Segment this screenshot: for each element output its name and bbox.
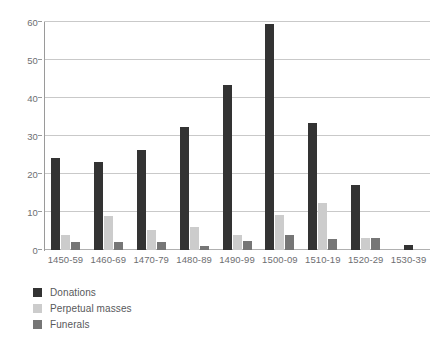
bar [404, 245, 413, 250]
legend-label: Perpetual masses [50, 303, 132, 314]
y-axis-tick-label: 0 [4, 245, 38, 256]
y-axis-tick-mark [38, 249, 42, 250]
bar [308, 123, 317, 250]
bar [61, 235, 70, 250]
y-axis-tick-label: 60 [4, 17, 38, 28]
x-axis-tick-label: 1490-99 [216, 254, 259, 270]
bar [275, 215, 284, 250]
legend-swatch-icon [33, 304, 42, 313]
bar [361, 238, 370, 250]
y-axis-tick-label: 10 [4, 207, 38, 218]
y-axis-tick-label: 20 [4, 169, 38, 180]
x-axis-tick-label: 1480-89 [173, 254, 216, 270]
bar [328, 239, 337, 250]
chart-legend: DonationsPerpetual massesFunerals [33, 285, 132, 333]
y-axis-tick-mark [38, 59, 42, 60]
bar-group [130, 22, 173, 250]
legend-swatch-icon [33, 320, 42, 329]
bar [265, 24, 274, 250]
bar [233, 235, 242, 250]
x-axis-tick-label: 1470-79 [130, 254, 173, 270]
bar [51, 158, 60, 250]
bar-chart-figure: 0102030405060 1450-591460-691470-791480-… [0, 0, 442, 341]
legend-item[interactable]: Perpetual masses [33, 301, 132, 316]
bar [147, 230, 156, 250]
y-axis-tick-label: 30 [4, 131, 38, 142]
bar-group [87, 22, 130, 250]
x-axis-tick-label: 1510-19 [301, 254, 344, 270]
y-axis-line [44, 22, 45, 251]
bar [351, 185, 360, 250]
bar-group [44, 22, 87, 250]
y-axis-tick-mark [38, 135, 42, 136]
legend-label: Funerals [50, 319, 90, 330]
bar-group [216, 22, 259, 250]
x-axis-tick-label: 1520-29 [344, 254, 387, 270]
bar [190, 227, 199, 250]
bar-group [387, 22, 430, 250]
bar [200, 246, 209, 250]
bar [223, 85, 232, 250]
legend-swatch-icon [33, 288, 42, 297]
bar [371, 238, 380, 250]
bar [137, 150, 146, 250]
bar-group [344, 22, 387, 250]
bar [71, 242, 80, 250]
legend-label: Donations [50, 287, 96, 298]
bar-group [258, 22, 301, 250]
x-axis-tick-label: 1500-09 [258, 254, 301, 270]
y-axis-tick-mark [38, 97, 42, 98]
bar-group [301, 22, 344, 250]
bar-groups [44, 22, 430, 250]
x-axis-tick-label: 1450-59 [44, 254, 87, 270]
y-axis-tick-mark [38, 173, 42, 174]
y-axis-labels: 0102030405060 [0, 22, 38, 250]
y-axis-tick-label: 40 [4, 93, 38, 104]
legend-item[interactable]: Funerals [33, 317, 132, 332]
bar [180, 127, 189, 250]
x-axis-tick-label: 1460-69 [87, 254, 130, 270]
bar [114, 242, 123, 250]
y-axis-tick-label: 50 [4, 55, 38, 66]
bar [285, 235, 294, 250]
plot-area [44, 22, 430, 250]
x-axis-tick-label: 1530-39 [387, 254, 430, 270]
y-axis-tick-mark [38, 21, 42, 22]
x-axis-labels: 1450-591460-691470-791480-891490-991500-… [44, 254, 430, 270]
bar-group [173, 22, 216, 250]
bar [94, 162, 103, 250]
y-axis-tick-mark [38, 211, 42, 212]
bar [243, 241, 252, 250]
bar [318, 203, 327, 250]
bar [157, 242, 166, 250]
bar [104, 216, 113, 250]
legend-item[interactable]: Donations [33, 285, 132, 300]
